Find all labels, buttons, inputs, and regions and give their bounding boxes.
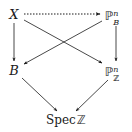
arrow-pz-to-spec	[76, 80, 108, 111]
node-pb-sup: n	[113, 10, 118, 18]
node-x: X	[9, 8, 18, 21]
arrow-b-to-spec	[22, 78, 57, 111]
arrow-pb-to-b	[24, 21, 102, 64]
node-projective-space-over-b: ℙnB	[105, 9, 121, 22]
node-pb-sub: B	[113, 19, 119, 27]
node-spec-word: Spec	[46, 113, 76, 127]
node-spec-ring: ℤ	[77, 113, 86, 127]
arrow-x-to-pz	[24, 20, 102, 63]
node-pz-sup: n	[113, 66, 118, 74]
node-b-label: B	[9, 63, 19, 78]
node-x-label: X	[9, 7, 18, 22]
node-b: B	[9, 64, 19, 77]
node-spec-z: Spec ℤ	[46, 113, 86, 126]
commutative-diagram: X ℙnB B ℙnℤ Spec ℤ	[0, 0, 132, 132]
node-pz-base: ℙ	[105, 65, 113, 79]
node-pz-sub: ℤ	[113, 75, 119, 83]
node-projective-space-over-z: ℙnℤ	[105, 65, 121, 78]
